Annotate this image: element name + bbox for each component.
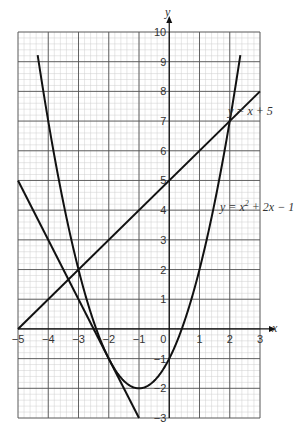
- svg-text:−1: −1: [133, 333, 146, 345]
- graph-plot: −5−4−3−2−1012310987654321−1−2−3: [0, 0, 305, 434]
- y-axis-label: y: [165, 5, 170, 20]
- svg-text:−4: −4: [42, 333, 55, 345]
- svg-text:6: 6: [160, 145, 166, 157]
- svg-text:2: 2: [227, 333, 233, 345]
- svg-text:0: 0: [160, 333, 166, 345]
- x-axis-label: x: [272, 321, 277, 336]
- svg-text:−1: −1: [154, 353, 167, 365]
- svg-text:4: 4: [160, 204, 166, 216]
- svg-text:7: 7: [160, 115, 166, 127]
- svg-text:−5: −5: [12, 333, 25, 345]
- svg-text:3: 3: [160, 234, 166, 246]
- curve-label: y = x2 + 2x − 1: [220, 199, 294, 215]
- line-label: y = x + 5: [228, 104, 273, 119]
- svg-text:10: 10: [154, 26, 166, 38]
- svg-text:3: 3: [257, 333, 263, 345]
- svg-text:1: 1: [196, 333, 202, 345]
- svg-text:−2: −2: [102, 333, 115, 345]
- svg-text:2: 2: [160, 264, 166, 276]
- svg-text:1: 1: [160, 293, 166, 305]
- svg-text:−3: −3: [72, 333, 85, 345]
- svg-text:9: 9: [160, 56, 166, 68]
- svg-text:−2: −2: [154, 382, 167, 394]
- svg-text:8: 8: [160, 85, 166, 97]
- svg-text:−3: −3: [154, 412, 167, 424]
